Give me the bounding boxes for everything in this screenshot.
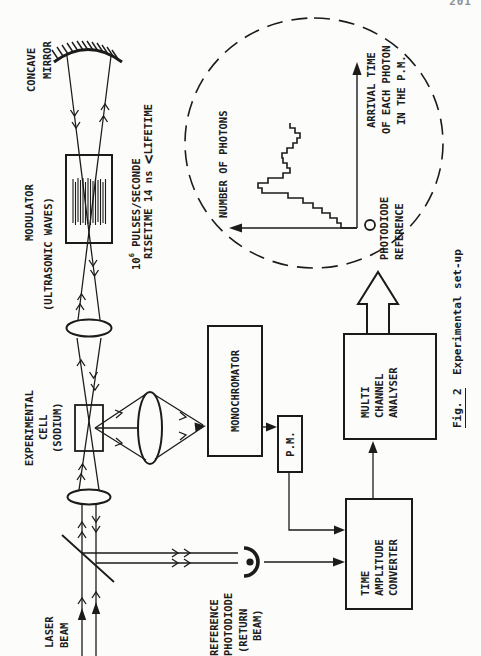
reference-photodiode-icon bbox=[244, 548, 345, 576]
concave-mirror-label-1: CONCAVE bbox=[26, 48, 37, 92]
inset-x-axis-label-2: OF EACH PHOTON bbox=[381, 45, 392, 134]
pulse-spec-line-1: 106 PULSES/SECONDE bbox=[127, 158, 142, 270]
photodiode-reference-marker bbox=[365, 220, 375, 230]
tac-label-1: TIME bbox=[360, 571, 371, 596]
beam-direction-arrows bbox=[78, 516, 100, 620]
collection-rays bbox=[95, 394, 206, 460]
experimental-cell-label-2: CELL bbox=[38, 415, 49, 440]
concave-mirror-shape bbox=[52, 41, 122, 62]
laser-beam-label-2: BEAM bbox=[59, 623, 70, 648]
tac-label-2: AMPLITUDE bbox=[374, 539, 385, 596]
inset-x-axis-label-3: IN THE P.M. bbox=[396, 55, 407, 125]
inset-marker-label-1: PHOTODIODE bbox=[379, 197, 390, 260]
mca-label-1: MULTI bbox=[360, 386, 371, 418]
histogram-path bbox=[258, 123, 357, 228]
laser-beam-label-1: LASER bbox=[44, 616, 55, 648]
figure-caption-text: Experimental set-up bbox=[451, 249, 464, 388]
figure-caption-number: Fig. 2 bbox=[451, 388, 466, 428]
time-axis bbox=[352, 62, 361, 228]
experimental-cell-label-3: (SODIUM) bbox=[52, 402, 63, 453]
experimental-cell-label-1: EXPERIMENTAL bbox=[24, 390, 35, 466]
collection-lens bbox=[138, 392, 162, 464]
reference-photodiode-label-1: REFERENCE bbox=[209, 599, 220, 656]
photon-count-axis bbox=[229, 223, 357, 232]
inset-x-axis-label-1: ARRIVAL TIME bbox=[366, 52, 377, 128]
modulator-label-2: (ULTRASONIC WAVES) bbox=[43, 197, 54, 311]
inset-y-axis-label: NUMBER OF PHOTONS bbox=[218, 111, 229, 218]
mca-label-3: ANALYSER bbox=[388, 367, 399, 418]
pulse-spec-line-2: RISETIME 14 ns <LIFETIME bbox=[143, 104, 154, 259]
inset-marker-label-2: REFERENCE bbox=[394, 203, 405, 260]
pm-box: P.M. bbox=[277, 415, 303, 473]
reference-beam-lines bbox=[82, 549, 238, 567]
monochromator-to-pm-arrow bbox=[263, 423, 277, 432]
mca-label-2: CHANNEL bbox=[374, 374, 385, 418]
ultrasonic-wave-stripes bbox=[73, 178, 106, 225]
scanned-paper-page: 201 bbox=[0, 0, 481, 656]
tac-label-3: CONVERTER bbox=[388, 539, 399, 596]
monochromator-box: MONOCHROMATOR bbox=[207, 325, 263, 457]
figure-landscape-canvas: LASER BEAM REFERENCE PHOTODIODE (RETURN … bbox=[0, 0, 481, 656]
reference-photodiode-label-4: BEAM) bbox=[252, 609, 263, 641]
laser-beam-lines bbox=[82, 504, 96, 656]
lens-2 bbox=[67, 320, 112, 337]
signal-to-inset-arrow bbox=[358, 272, 398, 333]
pm-label: P.M. bbox=[285, 431, 296, 456]
multi-channel-analyser-box: MULTI CHANNEL ANALYSER bbox=[343, 333, 437, 440]
inset-axes bbox=[229, 62, 375, 233]
lens-1 bbox=[68, 490, 111, 505]
reference-photodiode-label-3: (RETURN bbox=[238, 609, 249, 653]
beamsplitter bbox=[62, 535, 114, 582]
beam-cross-cell bbox=[77, 338, 101, 490]
reference-photodiode-label-2: PHOTODIODE bbox=[223, 593, 234, 656]
pm-to-tac-connector bbox=[289, 473, 345, 534]
modulator-label-1: MODULATOR bbox=[24, 184, 35, 241]
monochromator-label: MONOCHROMATOR bbox=[230, 350, 241, 432]
beam-cross-modulator bbox=[67, 56, 111, 320]
figure-caption: Fig. 2 Experimental set-up bbox=[451, 249, 464, 428]
tac-to-mca-arrow bbox=[368, 441, 377, 498]
concave-mirror-label-2: MIRROR bbox=[42, 41, 53, 79]
time-amplitude-converter-box: TIME AMPLITUDE CONVERTER bbox=[345, 498, 413, 610]
